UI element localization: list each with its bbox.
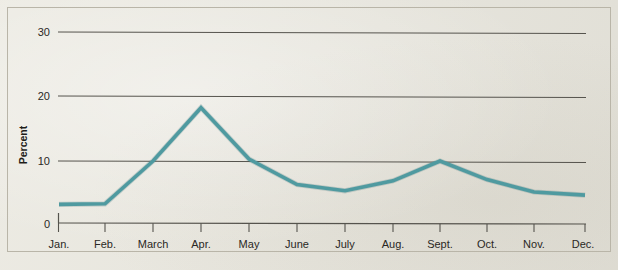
- x-tick-label-aug: Aug.: [382, 238, 405, 250]
- gridline-30: [58, 32, 586, 34]
- y-tick-labels: 30 20 10 0: [38, 26, 50, 230]
- gridline-20: [58, 96, 586, 98]
- y-tick-label-0: 0: [44, 218, 50, 230]
- x-tick-label-oct: Oct.: [477, 238, 497, 250]
- gridlines: [58, 32, 586, 163]
- gridline-10: [58, 161, 586, 163]
- x-tick-label-dec: Dec.: [572, 238, 595, 250]
- x-tick-label-march: March: [138, 238, 169, 250]
- x-tick-label-jan: Jan.: [49, 238, 70, 250]
- x-tick-label-june: June: [285, 238, 309, 250]
- y-tick-label-30: 30: [38, 26, 50, 38]
- y-tick-label-10: 10: [38, 155, 50, 167]
- x-tick-labels: Jan. Feb. March Apr. May June July Aug. …: [49, 238, 595, 250]
- chart-figure: 30 20 10 0 Percent Jan. Feb. March Apr. …: [0, 0, 618, 270]
- x-tick-label-july: July: [335, 238, 355, 250]
- line-chart-plot: 30 20 10 0 Percent Jan. Feb. March Apr. …: [0, 0, 618, 270]
- y-axis-title: Percent: [17, 125, 29, 164]
- x-tick-label-sept: Sept.: [427, 238, 453, 250]
- x-tick-label-nov: Nov.: [523, 238, 545, 250]
- y-tick-label-20: 20: [38, 90, 50, 102]
- x-axis-line: [58, 223, 586, 224]
- x-tick-label-apr: Apr.: [191, 238, 211, 250]
- x-tick-label-may: May: [239, 238, 260, 250]
- x-tick-label-feb: Feb.: [94, 238, 116, 250]
- axis-lines: [58, 213, 586, 224]
- series-line-shadow: [59, 108, 585, 205]
